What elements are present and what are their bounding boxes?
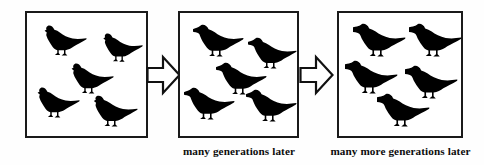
panel-generation-final [337, 11, 463, 138]
arrow-right-icon-1 [146, 54, 181, 96]
panel-generation-middle [178, 11, 299, 138]
caption-many-more-generations-later: many more generations later [323, 145, 478, 157]
bird-silhouette [89, 93, 139, 128]
bird-silhouette [184, 85, 236, 121]
evolution-figure: many generations later many more generat… [0, 0, 484, 165]
bird-silhouette [377, 91, 431, 128]
bird-silhouette [353, 21, 407, 58]
caption-many-generations-later: many generations later [172, 145, 306, 157]
bird-silhouette [193, 22, 245, 58]
bird-silhouette [345, 58, 399, 95]
bird-silhouette [246, 87, 298, 123]
panel-generation-initial [25, 11, 148, 138]
bird-silhouette [409, 21, 463, 58]
arrow-right-icon-2 [299, 54, 334, 96]
bird-silhouette [40, 23, 88, 57]
bird-silhouette [99, 31, 144, 63]
bird-silhouette [33, 85, 81, 119]
